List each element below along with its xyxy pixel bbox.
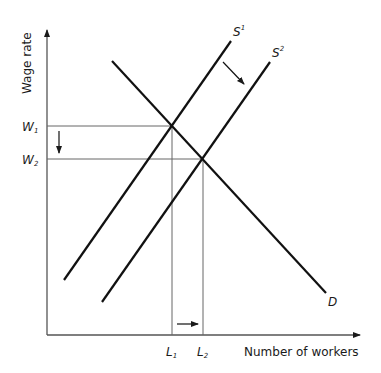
w1-label: W1 [22, 120, 38, 135]
d-label: D [328, 295, 337, 309]
demand-curve [112, 61, 326, 293]
supply-curve-s2 [102, 62, 270, 302]
x-axis-label: Number of workers [244, 345, 359, 359]
s1-label: S1 [233, 24, 245, 39]
labour-market-chart: Wage rate Number of workers S1 S2 D W1 W… [0, 0, 381, 373]
supply-shift-arrow [223, 62, 244, 84]
w2-label: W2 [22, 153, 39, 168]
s2-label: S2 [272, 45, 285, 60]
l1-label: L1 [166, 345, 177, 360]
l2-label: L2 [197, 345, 209, 360]
y-axis-label: Wage rate [20, 32, 34, 94]
supply-curve-s1 [64, 41, 231, 280]
